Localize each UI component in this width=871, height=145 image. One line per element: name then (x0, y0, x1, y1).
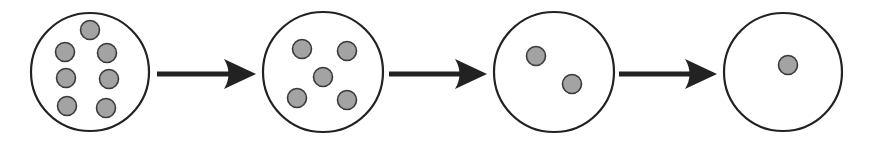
particle-dot (57, 69, 76, 88)
particle-dot (779, 56, 798, 75)
arrows-group (157, 59, 717, 89)
particle-dot (97, 99, 116, 118)
particle-dot (338, 91, 357, 110)
particle-dot (338, 42, 357, 61)
particle-dot (56, 43, 75, 62)
particle-dot (563, 75, 582, 94)
particle-dot (293, 40, 312, 59)
particle-dot (58, 97, 77, 116)
stage-2 (263, 12, 383, 132)
diagram-canvas (0, 0, 871, 145)
arrow-1 (157, 59, 256, 89)
arrow-head-icon (455, 59, 487, 89)
container-circle (494, 12, 614, 132)
particle-dot (314, 68, 333, 87)
particle-dot (527, 47, 546, 66)
particle-dot (81, 21, 100, 40)
arrow-head-icon (224, 59, 256, 89)
arrow-head-icon (685, 59, 717, 89)
particle-sequence-diagram (0, 0, 871, 145)
arrow-3 (619, 59, 717, 89)
particle-dot (100, 70, 119, 89)
stage-3 (494, 12, 614, 132)
stage-1 (31, 13, 149, 131)
stage-4 (724, 13, 842, 131)
particle-dot (98, 44, 117, 63)
arrow-2 (389, 59, 487, 89)
particle-dot (288, 89, 307, 108)
